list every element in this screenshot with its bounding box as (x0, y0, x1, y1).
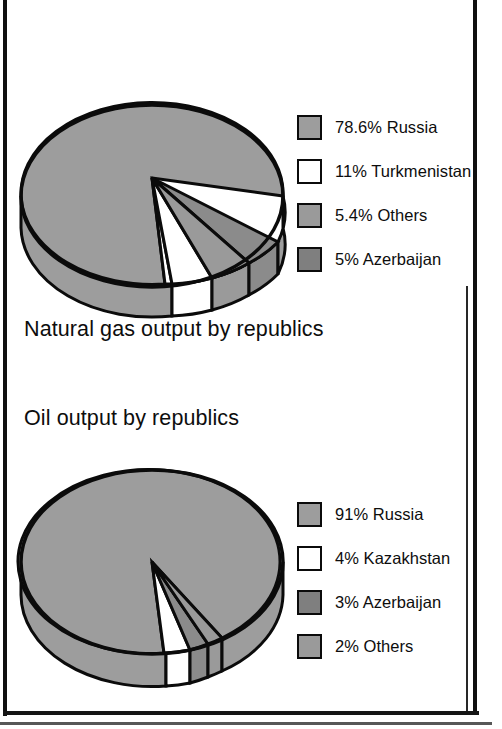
legend-item[interactable]: 11% Turkmenistan (297, 149, 471, 193)
pie-svg-natural-gas (14, 80, 299, 325)
document-page: Natural gas output by republics 78.6% Ru… (0, 0, 502, 729)
page-border-bottom-secondary (0, 722, 492, 725)
legend-label-turkmenistan: 11% Turkmenistan (335, 162, 471, 181)
legend-swatch-kazakhstan-oil (297, 546, 322, 571)
pie-side-kazakhstan-oil (166, 650, 190, 686)
legend-item[interactable]: 91% Russia (297, 492, 450, 536)
legend-item[interactable]: 78.6% Russia (297, 105, 471, 149)
legend-swatch-azerbaijan (297, 247, 322, 272)
legend-label-others-oil: 2% Others (335, 637, 413, 656)
chart-natural-gas: Natural gas output by republics 78.6% Ru… (0, 70, 470, 360)
legend-swatch-russia-oil (297, 502, 322, 527)
chart-oil: Oil output by republics (0, 400, 470, 710)
legend-item[interactable]: 5.4% Others (297, 193, 471, 237)
legend-swatch-azerbaijan-oil (297, 590, 322, 615)
legend-swatch-turkmenistan (297, 159, 322, 184)
page-border-right (473, 0, 477, 713)
legend-natural-gas: 78.6% Russia 11% Turkmenistan 5.4% Other… (297, 105, 471, 281)
legend-label-russia-oil: 91% Russia (335, 505, 424, 524)
page-border-bottom (3, 711, 479, 715)
chart-title-oil: Oil output by republics (24, 406, 239, 431)
legend-item[interactable]: 2% Others (297, 624, 450, 668)
pie-svg-oil (16, 445, 301, 695)
legend-swatch-russia (297, 115, 322, 140)
pie-chart-natural-gas (14, 80, 299, 325)
legend-item[interactable]: 4% Kazakhstan (297, 536, 450, 580)
legend-label-kazakhstan-oil: 4% Kazakhstan (335, 549, 450, 568)
legend-label-azerbaijan-oil: 3% Azerbaijan (335, 593, 441, 612)
legend-swatch-others-oil (297, 634, 322, 659)
legend-swatch-others (297, 203, 322, 228)
legend-item[interactable]: 3% Azerbaijan (297, 580, 450, 624)
legend-oil: 91% Russia 4% Kazakhstan 3% Azerbaijan 2… (297, 492, 450, 668)
chart-title-natural-gas: Natural gas output by republics (24, 317, 324, 342)
legend-item[interactable]: 5% Azerbaijan (297, 237, 471, 281)
legend-label-azerbaijan: 5% Azerbaijan (335, 250, 441, 269)
pie-chart-oil (16, 445, 301, 695)
legend-label-russia: 78.6% Russia (335, 118, 437, 137)
legend-label-others: 5.4% Others (335, 206, 427, 225)
